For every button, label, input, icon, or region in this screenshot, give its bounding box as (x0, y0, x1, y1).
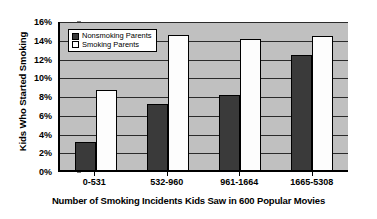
plot-area: Nonsmoking Parents Smoking Parents (58, 22, 348, 172)
x-axis-tick-labels: 0-531532-960961-16641665-5308 (58, 177, 348, 187)
bar-smoking (312, 36, 333, 170)
bar-chart-figure: Kids Who Started Smoking 0%2%4%6%8%10%12… (0, 0, 377, 219)
y-axis-tick-labels: 0%2%4%6%8%10%12%14%16% (22, 16, 52, 174)
y-tick-label: 8% (22, 93, 52, 102)
x-tick-mark (312, 172, 313, 176)
bar-nonsmoking (219, 95, 240, 170)
y-tick-label: 16% (22, 18, 52, 27)
y-tick-label: 6% (22, 111, 52, 120)
bar-nonsmoking (75, 142, 96, 170)
x-tick-mark (239, 172, 240, 176)
legend-label-smoking: Smoking Parents (82, 41, 139, 50)
y-tick-label: 14% (22, 36, 52, 45)
x-axis-title: Number of Smoking Incidents Kids Saw in … (0, 195, 377, 206)
y-tick-label: 2% (22, 149, 52, 158)
y-tick-label: 0% (22, 168, 52, 177)
y-tick-label: 10% (22, 74, 52, 83)
bar-nonsmoking (147, 104, 168, 170)
legend-swatch-nonsmoking (72, 33, 79, 40)
legend-item-smoking: Smoking Parents (72, 41, 152, 50)
bar-nonsmoking (291, 55, 312, 170)
bar-smoking (168, 35, 189, 170)
x-tick-label: 0-531 (58, 177, 131, 187)
bar-group (204, 22, 276, 170)
x-tick-mark (167, 172, 168, 176)
bar-smoking (96, 90, 117, 170)
legend-swatch-smoking (72, 41, 79, 48)
x-tick-label: 961-1664 (203, 177, 276, 187)
x-tick-label: 1665-5308 (276, 177, 349, 187)
bar-group (276, 22, 348, 170)
x-tick-label: 532-960 (131, 177, 204, 187)
bar-smoking (240, 39, 261, 170)
x-tick-mark (94, 172, 95, 176)
chart-legend: Nonsmoking Parents Smoking Parents (68, 29, 157, 52)
y-tick-label: 4% (22, 130, 52, 139)
y-tick-label: 12% (22, 55, 52, 64)
